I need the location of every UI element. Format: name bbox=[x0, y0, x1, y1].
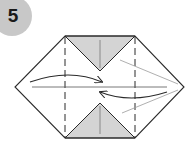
left-fold-arrow bbox=[30, 75, 102, 82]
origami-step-diagram bbox=[0, 0, 193, 153]
right-fold-arrow bbox=[100, 92, 167, 98]
